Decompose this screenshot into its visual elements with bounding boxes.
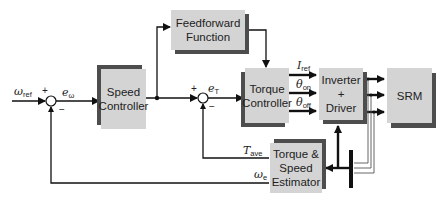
inverter-driver-block[interactable]: Inverter + Driver <box>319 68 363 120</box>
sum2-plus-sign: + <box>191 83 197 94</box>
t-ave-label: Tave <box>243 144 262 157</box>
theta-off-label: θoff <box>296 96 311 109</box>
block-label: Feedforward <box>176 16 241 30</box>
block-label: Torque & <box>273 147 319 161</box>
omega-e-label: ωe <box>254 168 267 181</box>
block-label: Controller <box>242 96 292 110</box>
sum2-minus-sign: − <box>209 101 215 112</box>
summing-junction-torque <box>198 93 208 103</box>
block-label: Speed <box>107 85 140 99</box>
block-label: Speed <box>279 161 312 175</box>
srm-block[interactable]: SRM <box>387 68 432 123</box>
block-label: Function <box>186 30 230 44</box>
feedforward-in-wire <box>157 27 170 98</box>
e-omega-label: eω <box>62 86 74 99</box>
block-label: Torque <box>249 82 284 96</box>
i-ref-label: Iref <box>297 59 310 72</box>
torque-controller-block[interactable]: Torque Controller <box>245 68 289 123</box>
block-label: Inverter <box>322 73 361 87</box>
sensor-bar <box>349 150 353 188</box>
speed-controller-block[interactable]: Speed Controller <box>101 69 146 129</box>
branch-dot <box>155 96 159 100</box>
block-label: + <box>338 87 345 101</box>
torque-speed-estimator-block[interactable]: Torque & Speed Estimator <box>270 143 322 193</box>
sum1-minus-sign: − <box>59 104 65 115</box>
theta-on-label: θon <box>296 78 311 91</box>
e-T-label: eT <box>208 82 219 95</box>
summing-junction-speed <box>46 96 56 106</box>
omega-ref-label: ωref <box>14 85 32 98</box>
feedforward-function-block[interactable]: Feedforward Function <box>171 10 245 50</box>
omega-e-feedback-wire <box>51 107 269 183</box>
sum1-plus-sign: + <box>42 85 48 96</box>
block-label: SRM <box>397 89 423 103</box>
block-label: Estimator <box>272 175 321 189</box>
block-label: Controller <box>99 99 149 113</box>
block-label: Driver <box>326 101 357 115</box>
